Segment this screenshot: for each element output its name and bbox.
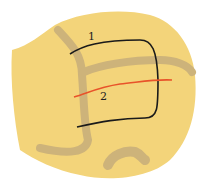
- label-2: 2: [100, 90, 107, 103]
- label-1: 1: [88, 30, 95, 43]
